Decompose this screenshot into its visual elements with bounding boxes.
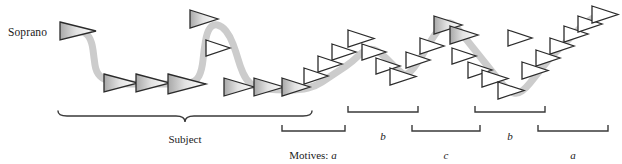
bracket-group <box>58 106 608 131</box>
motives-label: Motives: a <box>289 150 336 161</box>
notehead-6 <box>206 40 230 56</box>
melodic-contour-figure: Soprano Subject Motives: a bcba <box>0 0 622 164</box>
contour-diagram-svg <box>0 0 622 164</box>
motives-prefix-text: Motives: <box>289 149 328 161</box>
notehead-3 <box>136 74 170 92</box>
motive-letter-motive-a2: a <box>570 150 576 161</box>
motive-letter-motive-b1: b <box>380 131 386 142</box>
voice-label-soprano: Soprano <box>8 27 47 39</box>
bracket-subject <box>58 111 312 122</box>
motive-letter-motive-b2: b <box>507 131 513 142</box>
bracket-motive-b1 <box>348 106 418 112</box>
subject-bracket-label: Subject <box>169 134 202 145</box>
motive-letter-motive-c: c <box>444 150 449 161</box>
bracket-motive-a1 <box>282 125 345 131</box>
motive-letter-a1: a <box>331 149 337 161</box>
notehead-group <box>60 6 618 99</box>
bracket-motive-c <box>412 125 480 131</box>
notehead-13 <box>348 30 374 47</box>
notehead-2 <box>104 74 138 92</box>
notehead-24 <box>498 82 524 99</box>
bracket-motive-b2 <box>475 106 545 112</box>
notehead-31 <box>592 6 618 23</box>
bracket-motive-a2 <box>538 125 608 131</box>
notehead-25 <box>508 30 532 46</box>
